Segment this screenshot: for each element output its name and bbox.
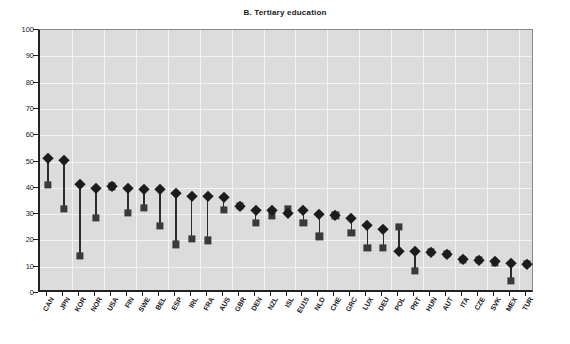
data-point-square xyxy=(300,220,307,227)
x-axis-label-tur: TUR xyxy=(521,296,534,312)
x-axis-label-cze: CZE xyxy=(473,296,486,311)
connector-line xyxy=(191,196,193,239)
x-axis-tick xyxy=(158,292,159,296)
data-point-diamond xyxy=(410,246,421,257)
x-axis-label-deu: DEU xyxy=(377,296,390,312)
x-axis-tick xyxy=(270,292,271,296)
x-axis-tick xyxy=(429,292,430,296)
data-point-square xyxy=(92,214,99,221)
gridline-vertical xyxy=(168,30,169,290)
x-axis-label-aus: AUS xyxy=(217,296,230,312)
x-axis-tick xyxy=(365,292,366,296)
chart-title: B. Tertiary education xyxy=(0,8,570,17)
gridline-horizontal xyxy=(40,135,532,136)
data-point-square xyxy=(140,204,147,211)
x-axis-label-nor: NOR xyxy=(89,296,103,313)
x-axis-tick xyxy=(381,292,382,296)
gridline-horizontal xyxy=(40,240,532,241)
x-axis-tick xyxy=(206,292,207,296)
x-axis-label-fra: FRA xyxy=(202,296,215,312)
x-axis-tick xyxy=(126,292,127,296)
connector-line xyxy=(79,184,81,256)
data-point-diamond xyxy=(218,192,229,203)
x-axis-tick xyxy=(190,292,191,296)
y-axis-tick-label: 80 xyxy=(8,78,34,87)
data-point-diamond xyxy=(202,190,213,201)
x-axis-tick xyxy=(142,292,143,296)
x-axis-tick xyxy=(509,292,510,296)
y-axis-tick-label: 60 xyxy=(8,130,34,139)
x-axis-label-jpn: JPN xyxy=(58,296,71,311)
x-axis-label-lux: LUX xyxy=(361,296,374,311)
data-point-diamond xyxy=(186,190,197,201)
connector-line xyxy=(159,189,161,226)
x-axis-tick xyxy=(254,292,255,296)
x-axis-tick xyxy=(493,292,494,296)
data-point-diamond xyxy=(59,155,70,166)
gridline-vertical xyxy=(136,30,137,290)
data-point-square xyxy=(507,278,514,285)
x-axis-tick xyxy=(445,292,446,296)
data-point-diamond xyxy=(122,182,133,193)
x-axis-label-grc: GRC xyxy=(345,296,359,313)
plot-area xyxy=(38,29,533,292)
y-axis-tick-label: 70 xyxy=(8,104,34,113)
data-point-square xyxy=(60,205,67,212)
data-point-square xyxy=(348,229,355,236)
data-point-square xyxy=(412,267,419,274)
x-axis-tick xyxy=(461,292,462,296)
data-point-square xyxy=(204,237,211,244)
chart-root: B. Tertiary education 010203040506070809… xyxy=(0,0,570,344)
data-point-diamond xyxy=(106,181,117,192)
x-axis-label-hun: HUN xyxy=(425,296,438,312)
y-axis-tick-label: 0 xyxy=(8,288,34,297)
data-point-diamond xyxy=(426,247,437,258)
x-axis-label-kor: KOR xyxy=(73,296,87,313)
x-axis-tick xyxy=(413,292,414,296)
x-axis-label-che: CHE xyxy=(329,296,342,312)
x-axis-label-fin: FIN xyxy=(123,296,135,309)
gridline-vertical xyxy=(264,30,265,290)
x-axis-label-isl: ISL xyxy=(283,296,294,309)
y-axis-tick-label: 100 xyxy=(8,25,34,34)
x-axis-tick xyxy=(525,292,526,296)
y-axis-tick-label: 50 xyxy=(8,157,34,166)
gridline-vertical xyxy=(519,30,520,290)
x-axis-label-mex: MEX xyxy=(505,296,518,312)
x-axis-tick xyxy=(78,292,79,296)
y-axis-tick-label: 90 xyxy=(8,51,34,60)
x-axis-label-esp: ESP xyxy=(170,296,183,311)
x-axis-label-bel: BEL xyxy=(154,296,167,311)
x-axis-label-irl: IRL xyxy=(187,296,199,309)
x-axis-label-eu15: EU15 xyxy=(296,296,311,314)
x-axis-tick xyxy=(286,292,287,296)
data-point-diamond xyxy=(330,210,341,221)
x-axis-label-prt: PRT xyxy=(409,296,422,311)
gridline-vertical xyxy=(423,30,424,290)
x-axis-label-den: DEN xyxy=(249,296,262,312)
data-point-diamond xyxy=(474,255,485,266)
x-axis-tick xyxy=(62,292,63,296)
data-point-diamond xyxy=(91,182,102,193)
y-axis-tick-label: 30 xyxy=(8,209,34,218)
x-axis-label-gbr: GBR xyxy=(233,296,247,313)
data-point-square xyxy=(220,207,227,214)
data-point-diamond xyxy=(362,219,373,230)
data-point-square xyxy=(380,245,387,252)
gridline-horizontal xyxy=(40,267,532,268)
x-axis-label-nld: NLD xyxy=(313,296,326,312)
gridline-vertical xyxy=(455,30,456,290)
x-axis-tick xyxy=(317,292,318,296)
data-point-square xyxy=(396,224,403,231)
gridline-vertical xyxy=(200,30,201,290)
gridline-vertical xyxy=(104,30,105,290)
data-point-diamond xyxy=(378,223,389,234)
x-axis-tick xyxy=(301,292,302,296)
data-point-square xyxy=(156,222,163,229)
gridline-vertical xyxy=(295,30,296,290)
data-point-square xyxy=(124,209,131,216)
gridline-horizontal xyxy=(40,109,532,110)
x-axis-label-svk: SVK xyxy=(489,296,502,312)
x-axis-tick xyxy=(222,292,223,296)
x-axis-label-swe: SWE xyxy=(137,296,151,313)
